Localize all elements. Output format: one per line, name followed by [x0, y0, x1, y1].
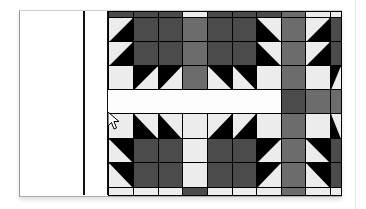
medium-patch	[182, 17, 208, 43]
half-square-triangle-patch	[330, 65, 342, 91]
half-square-triangle-patch	[232, 113, 257, 140]
dark-patch	[133, 41, 159, 67]
light-patch	[305, 113, 331, 140]
dark-patch	[232, 17, 257, 43]
dark-patch	[133, 138, 159, 164]
medium-patch	[281, 65, 306, 91]
light-patch	[207, 187, 233, 196]
light-patch	[305, 65, 331, 91]
half-square-triangle-patch	[305, 138, 331, 164]
half-square-triangle-patch	[305, 41, 331, 67]
mouse-cursor-icon	[107, 111, 121, 131]
dark-patch	[158, 138, 183, 164]
dark-patch	[281, 89, 306, 115]
half-square-triangle-patch	[108, 41, 134, 67]
dark-patch	[133, 17, 159, 43]
half-square-triangle-patch	[108, 162, 134, 189]
half-square-triangle-patch	[158, 65, 183, 91]
blank-patch	[256, 89, 282, 115]
half-square-triangle-patch	[305, 17, 331, 43]
half-square-triangle-patch	[256, 162, 282, 189]
dark-patch	[207, 162, 233, 189]
light-patch	[256, 187, 282, 196]
medium-patch	[281, 41, 306, 67]
dark-patch	[330, 41, 342, 67]
half-square-triangle-patch	[305, 162, 331, 189]
light-patch	[330, 187, 342, 196]
dark-patch	[330, 138, 342, 164]
light-patch	[305, 187, 331, 196]
half-square-triangle-patch	[133, 65, 159, 91]
light-patch	[182, 138, 208, 164]
blank-patch	[158, 89, 183, 115]
medium-patch	[281, 138, 306, 164]
page-edge	[355, 0, 356, 209]
half-square-triangle-patch	[108, 138, 134, 164]
light-patch	[182, 162, 208, 189]
blank-patch	[182, 89, 208, 115]
medium-patch	[281, 187, 306, 196]
dark-patch	[207, 41, 233, 67]
light-patch	[256, 113, 282, 140]
half-square-triangle-patch	[232, 65, 257, 91]
light-patch	[108, 65, 134, 91]
half-square-triangle-patch	[207, 113, 233, 140]
dark-patch	[330, 17, 342, 43]
dark-patch	[232, 162, 257, 189]
blank-patch	[232, 89, 257, 115]
half-square-triangle-patch	[158, 113, 183, 140]
half-square-triangle-patch	[330, 113, 342, 140]
blank-patch	[207, 89, 233, 115]
dark-patch	[207, 138, 233, 164]
half-square-triangle-patch	[256, 41, 282, 67]
light-patch	[108, 187, 134, 196]
medium-patch	[281, 113, 306, 140]
medium-patch	[281, 17, 306, 43]
half-square-triangle-patch	[108, 17, 134, 43]
dark-patch	[158, 17, 183, 43]
dark-patch	[158, 162, 183, 189]
light-patch	[133, 187, 159, 196]
medium-patch	[182, 41, 208, 67]
medium-patch	[182, 65, 208, 91]
medium-patch	[281, 162, 306, 189]
half-square-triangle-patch	[256, 17, 282, 43]
dark-patch	[232, 41, 257, 67]
dark-patch	[232, 138, 257, 164]
dark-patch	[207, 17, 233, 43]
light-patch	[232, 187, 257, 196]
half-square-triangle-patch	[256, 138, 282, 164]
half-square-triangle-patch	[133, 113, 159, 140]
dark-patch	[133, 162, 159, 189]
dark-patch	[182, 187, 208, 196]
light-patch	[158, 187, 183, 196]
column-divider-line[interactable]	[83, 11, 85, 195]
dark-patch	[330, 162, 342, 189]
half-square-triangle-patch	[207, 65, 233, 91]
medium-patch	[330, 89, 342, 115]
medium-patch	[305, 89, 331, 115]
blank-patch	[133, 89, 159, 115]
dark-patch	[158, 41, 183, 67]
light-patch	[256, 65, 282, 91]
light-patch	[182, 113, 208, 140]
